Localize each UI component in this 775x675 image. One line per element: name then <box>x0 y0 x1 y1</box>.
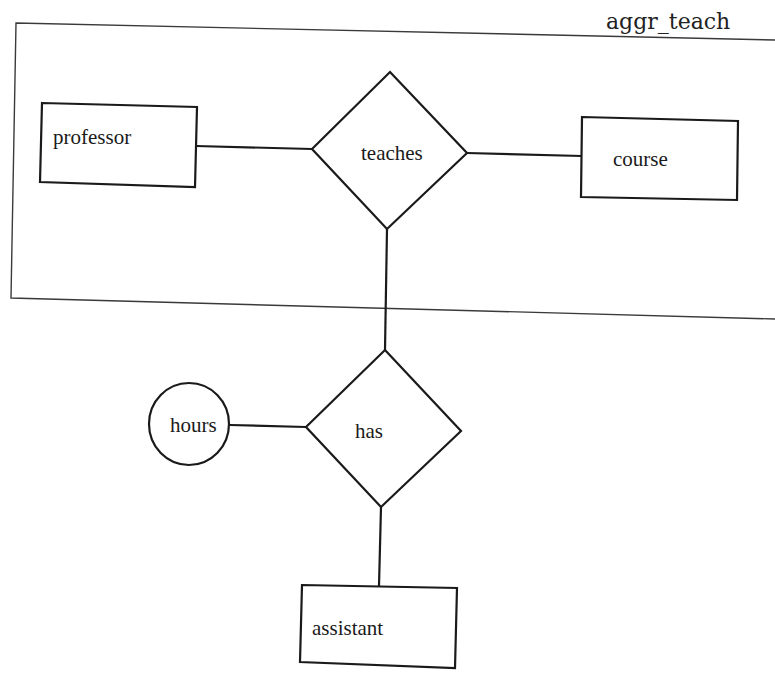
er-diagram-canvas: aggr_teach professor teaches course has … <box>0 0 775 675</box>
entity-professor[interactable]: professor <box>40 103 197 187</box>
entity-label: assistant <box>312 616 383 640</box>
relationship-teaches[interactable]: teaches <box>312 72 467 229</box>
edge-hours-has <box>230 425 306 427</box>
entity-assistant[interactable]: assistant <box>300 585 457 668</box>
relationship-label: teaches <box>361 141 423 165</box>
relationship-diamond <box>306 350 461 507</box>
entity-label: course <box>613 147 668 171</box>
entity-course[interactable]: course <box>581 117 738 200</box>
aggregation-label: aggr_teach <box>606 9 730 34</box>
edge-has-assistant <box>379 507 381 586</box>
relationship-label: has <box>355 419 383 443</box>
attribute-hours[interactable]: hours <box>149 383 229 465</box>
edge-teaches-has <box>385 229 387 350</box>
relationship-has[interactable]: has <box>306 350 461 507</box>
aggregation-border <box>11 23 775 319</box>
entity-label: professor <box>53 125 131 149</box>
attribute-label: hours <box>170 413 217 437</box>
edge-teaches-course <box>467 153 582 156</box>
edge-professor-teaches <box>196 146 312 149</box>
